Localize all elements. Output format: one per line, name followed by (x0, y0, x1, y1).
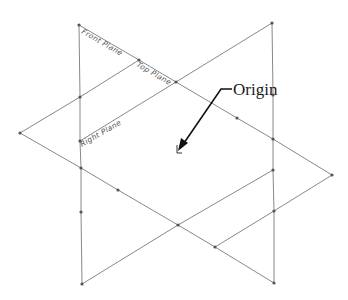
vertex-point (79, 166, 82, 169)
vertex-point (271, 168, 274, 171)
vertex-point (330, 173, 333, 176)
front-plane (20, 23, 332, 284)
front-plane-left-edge (79, 25, 82, 284)
planes-diagram: Front Plane Top Plane Right Plane Origin (0, 0, 348, 300)
vertex-point (272, 281, 275, 284)
vertex-point (235, 116, 238, 119)
front-plane-bottom-edge (20, 133, 274, 283)
vertex-point (116, 188, 119, 191)
vertex-point (270, 21, 273, 24)
vertex-point (272, 209, 275, 212)
vertex-point (77, 23, 80, 26)
top-plane-label: Top Plane (135, 60, 173, 87)
front-plane-label: Front Plane (80, 27, 124, 58)
vertex-point (176, 223, 179, 226)
diagram-canvas: Front Plane Top Plane Right Plane Origin (0, 0, 348, 300)
vertex-point (18, 131, 21, 134)
front-plane-right-edge (272, 23, 274, 283)
vertex-point (78, 95, 81, 98)
right-plane-bottom-edge (82, 170, 273, 284)
origin-label: Origin (233, 80, 278, 99)
origin-leader-line (184, 89, 232, 143)
right-plane-label: Right Plane (79, 118, 123, 149)
vertex-point (271, 137, 274, 140)
vertex-points (18, 21, 333, 285)
top-plane (20, 60, 332, 247)
vertex-point (80, 282, 83, 285)
vertex-point (79, 210, 82, 213)
origin-callout: Origin (178, 80, 278, 151)
vertex-point (213, 245, 216, 248)
vertex-point (174, 80, 177, 83)
